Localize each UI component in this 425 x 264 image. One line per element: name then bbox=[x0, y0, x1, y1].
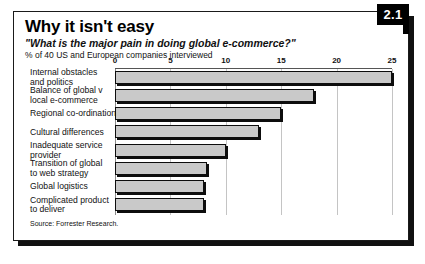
gridline bbox=[392, 69, 393, 215]
category-label: Global logistics bbox=[30, 182, 118, 192]
category-label: Transition of globalto web strategy bbox=[30, 159, 118, 178]
bar bbox=[115, 162, 207, 175]
gridline bbox=[337, 69, 338, 215]
panel-shadow-bottom bbox=[18, 241, 414, 246]
plot-area bbox=[115, 69, 392, 215]
x-tick-label: 25 bbox=[388, 56, 397, 65]
bar bbox=[115, 144, 226, 157]
category-label-line: local e-commerce bbox=[30, 95, 98, 105]
category-label: Cultural differences bbox=[30, 128, 118, 138]
category-label-line: to deliver bbox=[30, 204, 65, 214]
category-label: Balance of global vlocal e-commerce bbox=[30, 86, 118, 105]
bar bbox=[115, 198, 204, 211]
x-tick-label: 10 bbox=[221, 56, 230, 65]
bar bbox=[115, 107, 281, 120]
x-tick-label: 20 bbox=[332, 56, 341, 65]
category-label-line: Inadequate service bbox=[30, 140, 103, 150]
category-label: Complicated productto deliver bbox=[30, 196, 118, 215]
category-label-line: Regional co-ordination bbox=[30, 108, 116, 118]
x-tick-label: 0 bbox=[113, 56, 117, 65]
source-note: Source: Forrester Research. bbox=[30, 220, 118, 227]
bar bbox=[115, 71, 392, 84]
x-tick-label: 15 bbox=[277, 56, 286, 65]
chart-subtitle: "What is the major pain in doing global … bbox=[25, 37, 325, 50]
panel-shadow-right bbox=[409, 16, 414, 246]
plot-wrapper: Why it isn't easy "What is the major pai… bbox=[14, 12, 410, 242]
x-axis-tick-labels: 0510152025 bbox=[115, 56, 395, 68]
figure-badge-tail bbox=[403, 25, 409, 34]
category-label-line: Internal obstacles bbox=[30, 67, 97, 77]
category-label-line: Global logistics bbox=[30, 181, 88, 191]
chart-header: Why it isn't easy "What is the major pai… bbox=[25, 17, 325, 61]
category-label-line: Transition of global bbox=[30, 158, 102, 168]
chart-panel: Why it isn't easy "What is the major pai… bbox=[13, 11, 409, 241]
y-axis-category-labels: Internal obstaclesand politicsBalance of… bbox=[30, 69, 114, 215]
category-label-line: to web strategy bbox=[30, 168, 88, 178]
x-tick-label: 5 bbox=[168, 56, 172, 65]
category-label-line: Cultural differences bbox=[30, 127, 104, 137]
category-label-line: Balance of global v bbox=[30, 85, 103, 95]
category-label: Regional co-ordination bbox=[30, 109, 118, 119]
category-label-line: Complicated product bbox=[30, 195, 109, 205]
bar bbox=[115, 180, 204, 193]
figure-number-badge: 2.1 bbox=[377, 4, 409, 25]
bar bbox=[115, 125, 259, 138]
page-title: Why it isn't easy bbox=[25, 17, 325, 36]
bar bbox=[115, 89, 314, 102]
